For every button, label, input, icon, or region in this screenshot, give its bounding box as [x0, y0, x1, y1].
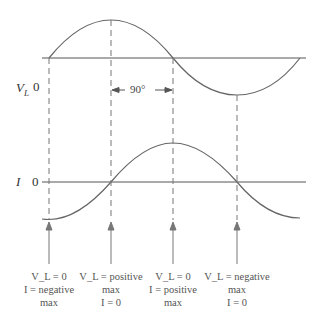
- right-arrowhead-icon: [165, 88, 172, 93]
- vl-zero-label: 0: [33, 79, 40, 95]
- up-arrow-icon: [170, 222, 176, 230]
- i-waveform: [42, 143, 300, 220]
- up-arrow-icon: [108, 222, 114, 230]
- phase-markers: [49, 20, 237, 220]
- left-arrowhead-icon: [112, 88, 119, 93]
- i-axis-label: I: [16, 174, 20, 190]
- up-arrow-icon: [234, 222, 240, 230]
- up-arrow-icon: [46, 222, 52, 230]
- annotation-4: V_L = negative max I = 0: [197, 270, 277, 309]
- indicator-arrows: [46, 222, 240, 264]
- phase-label: 90°: [130, 83, 145, 95]
- vl-axis-label: VL: [16, 80, 29, 98]
- i-zero-label: 0: [32, 174, 39, 190]
